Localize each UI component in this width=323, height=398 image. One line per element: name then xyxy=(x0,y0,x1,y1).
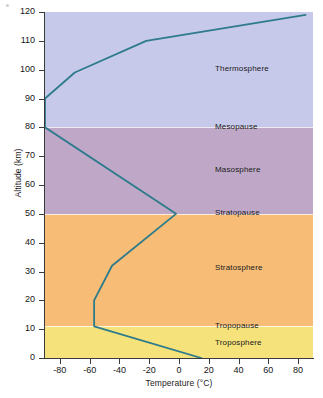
x-tick--60 xyxy=(90,359,91,364)
y-tick-label-40: 40 xyxy=(0,237,35,247)
y-tick-10 xyxy=(39,329,44,330)
x-tick--80 xyxy=(60,359,61,364)
x-tick-60 xyxy=(268,359,269,364)
y-tick-label-90: 90 xyxy=(0,93,35,103)
x-tick-40 xyxy=(239,359,240,364)
y-tick-120 xyxy=(39,12,44,13)
y-tick-label-60: 60 xyxy=(0,179,35,189)
y-tick-40 xyxy=(39,243,44,244)
y-tick-label-120: 120 xyxy=(0,6,35,16)
y-tick-0 xyxy=(39,358,44,359)
x-axis-title: Temperature (°C) xyxy=(45,378,313,388)
y-tick-110 xyxy=(39,41,44,42)
y-tick-label-10: 10 xyxy=(0,323,35,333)
y-tick-30 xyxy=(39,272,44,273)
x-tick-label-80: 80 xyxy=(278,365,318,375)
y-tick-80 xyxy=(39,127,44,128)
y-tick-label-80: 80 xyxy=(0,121,35,131)
x-tick-80 xyxy=(298,359,299,364)
y-tick-70 xyxy=(39,156,44,157)
y-tick-label-50: 50 xyxy=(0,208,35,218)
y-tick-label-20: 20 xyxy=(0,294,35,304)
y-tick-label-70: 70 xyxy=(0,150,35,160)
temperature-curve xyxy=(45,12,313,358)
temperature-curve-path xyxy=(45,15,306,358)
x-tick--20 xyxy=(149,359,150,364)
y-tick-50 xyxy=(39,214,44,215)
x-tick--40 xyxy=(119,359,120,364)
y-axis-line xyxy=(44,12,45,359)
y-tick-60 xyxy=(39,185,44,186)
atmosphere-temperature-profile-figure: Altitude (km) Temperature (°C) Thermosph… xyxy=(0,0,323,398)
y-tick-label-30: 30 xyxy=(0,266,35,276)
plot-area: ThermosphereMesopauseMasosphereStratopau… xyxy=(45,12,313,358)
x-tick-20 xyxy=(209,359,210,364)
x-tick-0 xyxy=(179,359,180,364)
y-tick-90 xyxy=(39,99,44,100)
y-tick-100 xyxy=(39,70,44,71)
y-tick-20 xyxy=(39,300,44,301)
y-tick-label-0: 0 xyxy=(0,352,35,362)
y-tick-label-100: 100 xyxy=(0,64,35,74)
y-tick-label-110: 110 xyxy=(0,35,35,45)
